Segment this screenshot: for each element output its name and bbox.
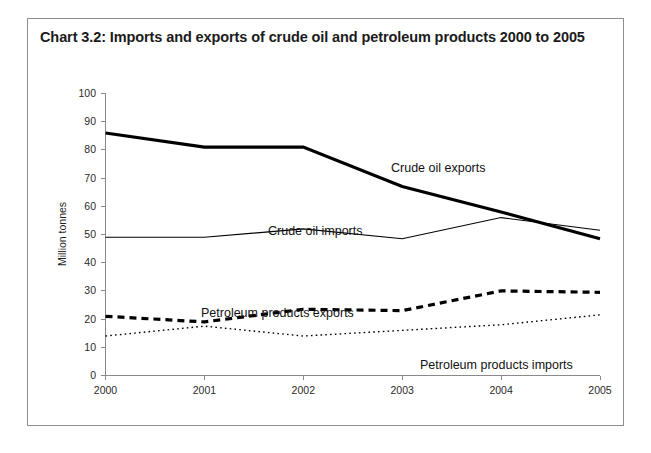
- x-tick-label-2000: 2000: [94, 384, 118, 396]
- x-tick-label-2002: 2002: [292, 384, 316, 396]
- y-axis-title: Million tonnes: [56, 202, 68, 266]
- x-axis-ticks: [106, 376, 601, 381]
- x-tick-label-2003: 2003: [391, 384, 415, 396]
- y-tick-label-70: 70: [84, 172, 96, 184]
- line-chart-svg: 100 90 80 70 60 50 40 30 20 10 0 Million…: [28, 19, 625, 427]
- chart-figure-frame: Chart 3.2: Imports and exports of crude …: [27, 18, 624, 426]
- series-label-crude-oil-exports: Crude oil exports: [391, 161, 486, 175]
- y-tick-label-80: 80: [84, 143, 96, 155]
- series-label-crude-oil-imports: Crude oil imports: [268, 224, 362, 238]
- series-line-crude-oil-exports: [106, 133, 601, 239]
- y-tick-label-0: 0: [90, 369, 96, 381]
- series-label-petroleum-products-imports: Petroleum products imports: [420, 358, 573, 372]
- x-tick-label-2001: 2001: [193, 384, 217, 396]
- plot-area: 100 90 80 70 60 50 40 30 20 10 0 Million…: [28, 19, 625, 427]
- x-tick-label-2004: 2004: [489, 384, 513, 396]
- y-tick-label-10: 10: [84, 341, 96, 353]
- y-tick-label-30: 30: [84, 284, 96, 296]
- y-tick-label-20: 20: [84, 313, 96, 325]
- y-tick-label-50: 50: [84, 228, 96, 240]
- x-tick-label-2005: 2005: [588, 384, 612, 396]
- y-tick-label-40: 40: [84, 256, 96, 268]
- y-tick-label-60: 60: [84, 200, 96, 212]
- y-tick-label-90: 90: [84, 115, 96, 127]
- series-label-petroleum-products-exports: Petroleum products exports: [201, 306, 354, 320]
- y-axis-ticks: [101, 94, 106, 376]
- y-tick-label-100: 100: [78, 87, 96, 99]
